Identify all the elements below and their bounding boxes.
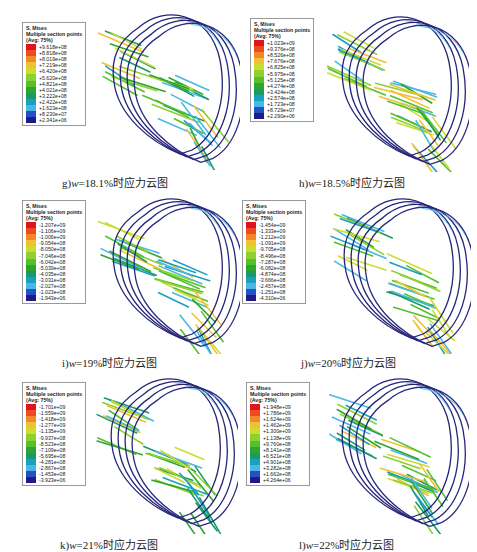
legend-value: +2.574e+08 xyxy=(267,95,295,101)
legend-value: +8.526e+08 xyxy=(267,52,295,58)
legend-rows: +9.618e+08+8.818e+08+8.019e+08+7.219e+08… xyxy=(26,44,82,123)
legend-value: +1.023e+09 xyxy=(267,40,295,46)
anchor-bolt xyxy=(175,448,204,460)
caption-label: k) xyxy=(60,539,69,551)
color-legend: S, Mises Multiple section points (Avg: 7… xyxy=(246,382,310,486)
legend-value: -6.082e+08 xyxy=(259,265,285,271)
legend-value: -1.135e+09 xyxy=(39,428,65,434)
legend-row: -4.310e+06 xyxy=(246,295,302,301)
stress-contour-panel-g: S, Mises Multiple section points (Avg: 7… xyxy=(0,0,238,182)
legend-value: -9.937e+08 xyxy=(39,435,65,441)
legend-value: +8.019e+08 xyxy=(39,56,67,62)
color-legend: S, Mises Multiple section points (Avg: 7… xyxy=(242,200,306,304)
legend-value: -4.310e+06 xyxy=(259,295,285,301)
steel-arch-ring xyxy=(132,387,238,526)
steel-arch-ring xyxy=(356,384,465,523)
legend-value: +6.420e+08 xyxy=(39,68,67,74)
legend-row: -1.943e+06 xyxy=(26,295,82,301)
steel-arch-ring xyxy=(118,382,227,521)
legend-value: -5.695e+08 xyxy=(39,453,65,459)
legend-value: +7.219e+08 xyxy=(39,62,67,68)
legend-averaging: (Avg: 75%) xyxy=(26,37,82,43)
legend-value: +2.290e+06 xyxy=(267,113,295,119)
steel-arch-ring xyxy=(363,387,469,526)
legend-value: -2.457e+08 xyxy=(259,283,285,289)
legend-value: +4.274e+08 xyxy=(267,83,295,89)
legend-value: +1.623e+08 xyxy=(39,105,67,111)
color-legend: S, Mises Multiple section points (Avg: 7… xyxy=(22,200,86,304)
caption-text: =21%时应力云图 xyxy=(77,539,158,551)
color-legend: S, Mises Multiple section points (Avg: 7… xyxy=(22,382,86,486)
legend-value: -5.039e+08 xyxy=(39,265,65,271)
legend-value: +9.760e+08 xyxy=(263,441,291,447)
legend-value: +6.521e+08 xyxy=(263,453,291,459)
legend-value: -1.091e+09 xyxy=(259,240,285,246)
legend-averaging: (Avg: 75%) xyxy=(250,397,306,403)
stress-contour-panel-k: S, Mises Multiple section points (Avg: 7… xyxy=(0,364,238,546)
legend-averaging: (Avg: 75%) xyxy=(26,215,82,221)
legend-value: -1.212e+09 xyxy=(259,234,285,240)
legend-value: -8.523e+08 xyxy=(39,441,65,447)
color-legend: S, Mises Multiple section points (Avg: 7… xyxy=(250,18,314,122)
legend-value: -3.923e+06 xyxy=(39,477,65,483)
legend-value: -7.109e+08 xyxy=(39,447,65,453)
legend-value: -1.106e+09 xyxy=(39,228,65,234)
legend-value: -1.453e+08 xyxy=(39,471,65,477)
anchor-bolt xyxy=(335,261,366,280)
legend-value: +4.901e+08 xyxy=(263,459,291,465)
legend-value: -8.496e+08 xyxy=(259,253,285,259)
legend-value: +4.021e+08 xyxy=(39,87,67,93)
steel-arch-ring xyxy=(358,204,467,343)
anchor-bolt xyxy=(99,33,144,52)
legend-value: -1.023e+08 xyxy=(39,289,65,295)
legend-value: +1.462e+09 xyxy=(263,422,291,428)
legend-value: -9.054e+08 xyxy=(39,240,65,246)
legend-value: +8.729e+07 xyxy=(267,107,295,113)
legend-value: -3.031e+08 xyxy=(39,277,65,283)
legend-value: +8.230e+07 xyxy=(39,111,67,117)
tunnel-support-ring-model xyxy=(309,2,469,172)
legend-swatch xyxy=(26,477,36,483)
legend-rows: -1.701e+09-1.559e+09-1.418e+09-1.277e+09… xyxy=(26,404,82,483)
legend-row: -3.923e+06 xyxy=(26,477,82,483)
anchor-bolt xyxy=(390,438,430,457)
legend-swatch xyxy=(254,113,264,119)
legend-value: -1.277e+09 xyxy=(39,422,65,428)
legend-value: -1.333e+09 xyxy=(259,228,285,234)
legend-value: +7.676e+08 xyxy=(267,58,295,64)
anchor-bolt xyxy=(328,68,366,86)
stress-contour-panel-i: S, Mises Multiple section points (Avg: 7… xyxy=(0,182,238,364)
anchor-bolt xyxy=(342,215,384,231)
legend-value: +6.825e+08 xyxy=(267,64,295,70)
panel-caption: k)w=21%时应力云图 xyxy=(60,536,158,552)
legend-value: +1.723e+08 xyxy=(267,101,295,107)
legend-value: +1.948e+09 xyxy=(263,404,291,410)
stress-contour-panel-j: S, Mises Multiple section points (Avg: 7… xyxy=(239,182,477,364)
tunnel-support-ring-model xyxy=(311,184,471,354)
legend-value: +8.818e+08 xyxy=(39,50,67,56)
legend-value: +5.620e+08 xyxy=(39,75,67,81)
legend-value: -1.006e+09 xyxy=(39,234,65,240)
legend-value: +4.821e+08 xyxy=(39,81,67,87)
legend-value: +2.341e+06 xyxy=(39,117,67,123)
legend-value: +1.300e+09 xyxy=(263,428,291,434)
tunnel-support-ring-model xyxy=(80,0,240,170)
legend-row: +2.341e+06 xyxy=(26,117,82,123)
stress-contour-panel-h: S, Mises Multiple section points (Avg: 7… xyxy=(239,0,477,182)
legend-value: -9.705e+08 xyxy=(259,246,285,252)
legend-row: +4.264e+06 xyxy=(250,477,306,483)
legend-value: -1.701e+09 xyxy=(39,404,65,410)
stress-contour-panel-l: S, Mises Multiple section points (Avg: 7… xyxy=(239,364,477,546)
caption-variable: w xyxy=(306,539,313,551)
legend-value: +4.264e+06 xyxy=(263,477,291,483)
legend-swatch xyxy=(250,477,260,483)
caption-text: =22%时应力云图 xyxy=(313,539,394,551)
legend-value: -1.943e+06 xyxy=(39,295,65,301)
anchor-bolt xyxy=(389,292,429,309)
legend-value: +1.138e+09 xyxy=(263,435,291,441)
legend-value: -4.035e+08 xyxy=(39,271,65,277)
tunnel-support-ring-model xyxy=(309,364,469,534)
legend-value: -7.046e+08 xyxy=(39,253,65,259)
legend-rows: +1.948e+09+1.786e+09+1.624e+09+1.462e+09… xyxy=(250,404,306,483)
legend-value: -4.874e+08 xyxy=(259,271,285,277)
